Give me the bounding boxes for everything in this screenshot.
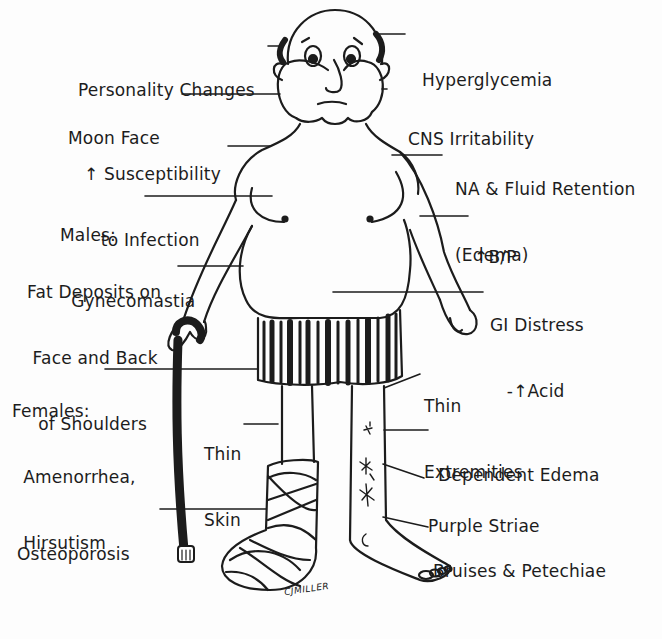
striped-shorts: [258, 310, 402, 385]
cushing-diagram: Personality Changes Moon Face ↑ Suscepti…: [0, 0, 662, 639]
cane: [176, 320, 202, 562]
label-thin-skin: Thin Skin: [204, 399, 241, 575]
head: [274, 10, 389, 124]
label-osteoporosis: Osteoporosis: [17, 499, 130, 609]
torso: [235, 124, 418, 318]
label-bruises-petechiae: Bruises & Petechiae: [433, 516, 606, 626]
